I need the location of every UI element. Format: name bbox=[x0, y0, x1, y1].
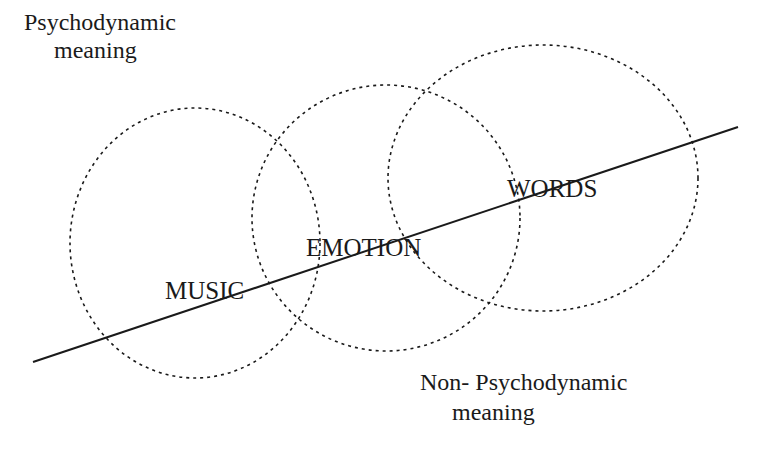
psychodynamic-label-line2: meaning bbox=[54, 38, 176, 62]
words-label: WORDS bbox=[507, 176, 597, 201]
emotion-circle bbox=[252, 85, 520, 351]
non-psychodynamic-label-line1: Non- Psychodynamic bbox=[420, 370, 627, 394]
psychodynamic-label-line1: Psychodynamic bbox=[24, 10, 176, 34]
non-psychodynamic-label-line2: meaning bbox=[452, 400, 627, 424]
venn-diagram bbox=[0, 0, 758, 455]
non-psychodynamic-label: Non- Psychodynamic meaning bbox=[420, 370, 627, 424]
music-label: MUSIC bbox=[165, 278, 244, 303]
emotion-label: EMOTION bbox=[306, 235, 421, 260]
psychodynamic-label: Psychodynamic meaning bbox=[24, 10, 176, 62]
